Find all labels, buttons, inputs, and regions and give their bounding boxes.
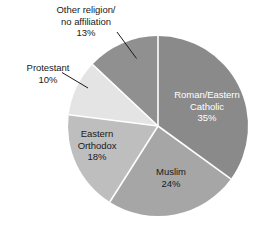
pie-chart: Other religion/ no affiliation 13% Prote… <box>0 0 266 227</box>
pie-label-other-religion: Other religion/ no affiliation 13% <box>34 4 138 39</box>
pie-label-roman-eastern-catholic: Roman/Eastern Catholic 35% <box>158 89 256 124</box>
pie-label-eastern-orthodox: Eastern Orthodox 18% <box>58 128 136 163</box>
pie-label-protestant: Protestant 10% <box>6 62 90 85</box>
pie-label-muslim: Muslim 24% <box>134 166 208 189</box>
